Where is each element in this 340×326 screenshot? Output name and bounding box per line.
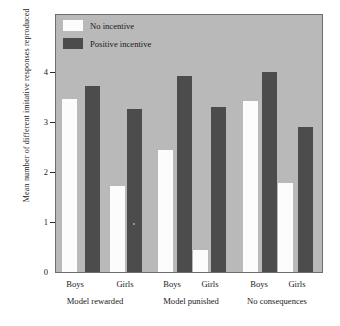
bars-container (56, 15, 322, 272)
bar-positive-incentive-model-rewarded-girls (127, 109, 142, 273)
x-group-label-no-consequences: No consequences (222, 296, 332, 306)
legend-swatch-positive-incentive (63, 38, 83, 49)
x-sub-label-4: Girls (190, 279, 230, 289)
bar-positive-incentive-model-rewarded-boys (85, 86, 100, 272)
artifact-speck (133, 223, 135, 225)
plot-area: No incentive Positive incentive (55, 14, 323, 273)
legend-item-positive-incentive: Positive incentive (63, 38, 151, 49)
bar-no-incentive-no-consequences-boys (243, 101, 258, 273)
bar-positive-incentive-model-punished-girls (211, 107, 226, 272)
bar-no-incentive-model-punished-boys (158, 150, 173, 272)
y-axis-title: Mean number of different imitative respo… (22, 5, 33, 205)
y-tick-label-2: 2 (36, 168, 48, 177)
y-tick-label-0: 0 (36, 268, 48, 277)
x-sub-label-1: Boys (55, 279, 95, 289)
x-sub-label-3: Boys (152, 279, 192, 289)
bar-positive-incentive-no-consequences-boys (262, 72, 277, 272)
x-sub-label-5: Boys (239, 279, 279, 289)
legend-label-positive-incentive: Positive incentive (90, 39, 151, 49)
bar-no-incentive-model-rewarded-boys (62, 99, 77, 273)
bar-no-incentive-no-consequences-girls (278, 183, 293, 272)
x-group-label-model-rewarded: Model rewarded (40, 296, 150, 306)
bar-no-incentive-model-punished-girls (193, 250, 208, 273)
x-sub-label-6: Girls (277, 279, 317, 289)
legend-label-no-incentive: No incentive (90, 21, 134, 31)
chart-figure: Mean number of different imitative respo… (0, 0, 340, 326)
bar-positive-incentive-model-punished-boys (177, 76, 192, 273)
bar-positive-incentive-no-consequences-girls (298, 127, 313, 272)
bar-no-incentive-model-rewarded-girls (110, 186, 125, 273)
y-tick-label-1: 1 (36, 218, 48, 227)
y-tick-label-3: 3 (36, 118, 48, 127)
legend-item-no-incentive: No incentive (63, 20, 134, 31)
y-tick-label-4: 4 (36, 68, 48, 77)
x-sub-label-2: Girls (105, 279, 145, 289)
legend-swatch-no-incentive (63, 20, 83, 31)
